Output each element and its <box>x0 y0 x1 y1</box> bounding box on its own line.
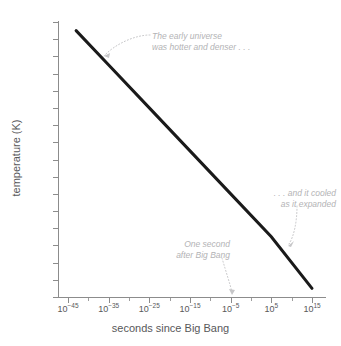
annotation-cooled: . . . and it cooled as it expanded <box>252 188 336 211</box>
chart-figure: 1032103010281026102410221020101810161014… <box>0 0 341 346</box>
leader-line-early-universe <box>104 35 150 56</box>
x-axis-title: seconds since Big Bang <box>0 322 341 334</box>
annotation-early-universe-line2: was hotter and denser . . . <box>152 42 250 53</box>
annotation-one-second-line2: after Big Bang <box>160 250 230 261</box>
annotation-one-second-line1: One second <box>160 239 230 250</box>
annotation-early-universe-line1: The early universe <box>152 31 250 42</box>
annotation-cooled-line2: as it expanded <box>252 199 336 210</box>
leader-line-cooled <box>289 206 297 244</box>
leader-line-one-second <box>222 258 232 292</box>
annotation-early-universe: The early universe was hotter and denser… <box>152 31 250 54</box>
leader-arrow-early-universe <box>104 53 110 58</box>
annotation-one-second: One second after Big Bang <box>160 239 230 262</box>
leader-arrow-one-second <box>229 289 235 295</box>
y-axis-title: temperature (K) <box>10 88 22 228</box>
annotation-cooled-line1: . . . and it cooled <box>252 188 336 199</box>
